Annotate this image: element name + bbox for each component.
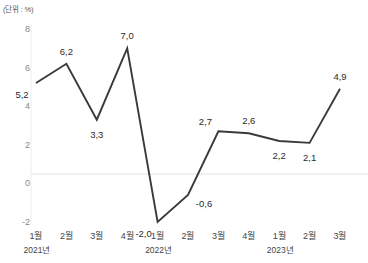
data-point-value-label: 7,0 [121, 30, 134, 41]
data-point-value-label: 2,7 [199, 116, 212, 127]
data-point-value-label: 3,3 [90, 128, 103, 139]
data-point-value-label: 5,2 [15, 89, 28, 100]
data-point-value-label: 4,9 [333, 70, 346, 81]
data-point-value-label: 6,2 [60, 45, 73, 56]
data-point-value-label: 2,1 [303, 151, 316, 162]
line-chart: (단위 : %) 86420-2 1월2월3월4월1월2월3월4월1월2월3월2… [0, 0, 368, 263]
data-point-value-label: 2,2 [273, 149, 286, 160]
value-labels: 5,26,23,37,0-2,0-0,62,72,62,22,14,9 [0, 0, 368, 263]
data-point-value-label: -2,0 [135, 228, 151, 239]
data-point-value-label: 2,6 [242, 115, 255, 126]
data-point-value-label: -0,6 [196, 197, 212, 208]
